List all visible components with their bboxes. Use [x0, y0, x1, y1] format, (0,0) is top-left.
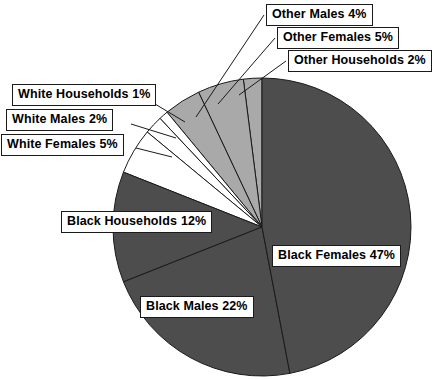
callout-black-females: Black Females 47%	[272, 245, 401, 267]
callout-black-households-value: 12%	[181, 214, 206, 228]
callout-other-females: Other Females 5%	[277, 27, 399, 49]
callout-other-households: Other Households 2%	[288, 50, 432, 72]
callout-black-households: Black Households12%	[61, 211, 212, 233]
callout-white-households: White Households 1%	[12, 84, 156, 106]
callout-black-males: Black Males 22%	[140, 296, 254, 318]
callout-black-households-label: Black Households	[67, 214, 177, 228]
callout-other-males: Other Males 4%	[266, 4, 373, 26]
callout-white-females: White Females 5%	[1, 134, 124, 156]
callout-white-males: White Males 2%	[6, 109, 113, 131]
pie-slice-black-females	[262, 78, 411, 373]
